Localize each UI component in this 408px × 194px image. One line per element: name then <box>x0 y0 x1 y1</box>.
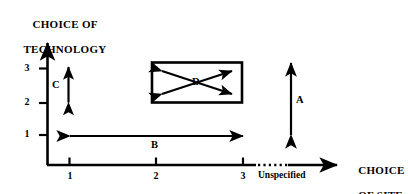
y-tick-label-2: 2 <box>18 96 36 107</box>
x-axis-title-line2: OF SITE <box>358 189 403 194</box>
y-tick-label-3: 3 <box>18 62 36 73</box>
y-tick-label-1: 1 <box>18 128 36 139</box>
x-axis-unspecified-label: Unspecified <box>258 170 306 181</box>
range-b-label: B <box>151 139 158 151</box>
figure-canvas: CHOICE OF TECHNOLOGY 3 2 1 1 2 3 Unspeci… <box>0 0 408 194</box>
x-tick-label-2: 2 <box>146 170 166 181</box>
x-axis-title-line1: CHOICE <box>358 164 404 176</box>
range-a-label: A <box>296 94 304 106</box>
y-axis-title: CHOICE OF TECHNOLOGY <box>0 6 118 68</box>
range-c-label: C <box>52 79 60 91</box>
y-axis-title-line1: CHOICE OF <box>32 18 97 30</box>
region-d-label: D <box>192 76 200 88</box>
x-tick-label-3: 3 <box>233 170 253 181</box>
y-axis-title-line2: TECHNOLOGY <box>23 43 106 55</box>
y-axis-ticks <box>39 69 47 136</box>
x-axis-title: CHOICE OF SITE <box>346 152 408 194</box>
x-tick-label-1: 1 <box>60 170 80 181</box>
